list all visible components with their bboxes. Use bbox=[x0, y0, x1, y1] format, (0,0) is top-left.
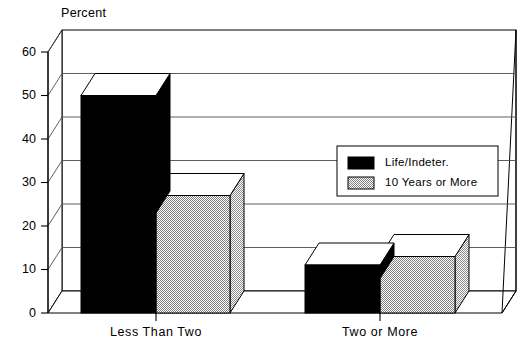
legend-box bbox=[337, 146, 498, 196]
bar-group-0-series-1 bbox=[156, 174, 244, 314]
y-tick-label-10: 10 bbox=[6, 262, 36, 276]
legend-label-life-indeter: Life/Indeter. bbox=[385, 156, 449, 168]
y-tick-label-0: 0 bbox=[6, 306, 36, 320]
x-axis-ticks bbox=[156, 313, 380, 321]
legend-swatch-black bbox=[348, 157, 374, 169]
category-label-two-or-more: Two or More bbox=[292, 325, 468, 339]
y-tick-label-60: 60 bbox=[6, 45, 36, 59]
y-tick-label-30: 30 bbox=[6, 175, 36, 189]
y-tick-label-40: 40 bbox=[6, 132, 36, 146]
bar-chart-figure: Percent 60 50 40 30 20 10 0 Less Than Tw… bbox=[0, 0, 531, 349]
y-tick-label-20: 20 bbox=[6, 219, 36, 233]
category-label-less-than-two: Less Than Two bbox=[68, 325, 244, 339]
legend-label-10-years-or-more: 10 Years or More bbox=[385, 176, 477, 188]
y-axis-title: Percent bbox=[61, 6, 106, 20]
legend-swatch-gray bbox=[348, 177, 374, 189]
y-axis bbox=[41, 52, 48, 313]
y-tick-label-50: 50 bbox=[6, 88, 36, 102]
chart-canvas bbox=[0, 0, 531, 349]
